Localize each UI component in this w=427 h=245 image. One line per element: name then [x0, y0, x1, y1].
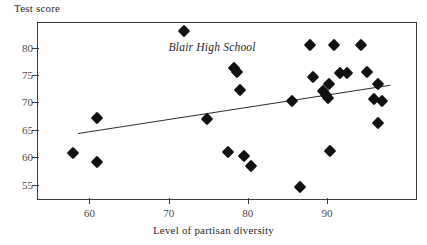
- data-point: [328, 39, 341, 52]
- x-tick-label: 80: [242, 207, 253, 219]
- data-point: [324, 144, 337, 157]
- data-point: [222, 145, 235, 158]
- y-tick-mark: [32, 102, 39, 103]
- y-tick-label: 75: [22, 69, 33, 81]
- y-tick-mark: [32, 75, 39, 76]
- plot-area: 55606570758060708090Blair High School: [37, 22, 417, 200]
- y-tick-label: 70: [22, 96, 33, 108]
- data-point: [355, 39, 368, 52]
- data-point: [245, 160, 258, 173]
- y-tick-mark: [32, 130, 39, 131]
- data-point: [91, 112, 104, 125]
- x-axis-title: Level of partisan diversity: [0, 224, 427, 236]
- trend-line: [78, 85, 391, 134]
- y-tick-mark: [32, 185, 39, 186]
- data-point: [360, 66, 373, 79]
- data-point: [200, 113, 213, 126]
- annotation-blair-high-school: Blair High School: [169, 41, 256, 53]
- x-tick-label: 70: [163, 207, 174, 219]
- x-tick-mark: [169, 198, 170, 204]
- y-tick-mark: [32, 48, 39, 49]
- data-point: [66, 146, 79, 159]
- data-point: [178, 25, 191, 38]
- x-tick-mark: [248, 198, 249, 204]
- x-tick-mark: [89, 198, 90, 204]
- y-tick-label: 60: [22, 151, 33, 163]
- y-tick-label: 55: [22, 179, 33, 191]
- data-point: [294, 181, 307, 194]
- y-axis-title: Test score: [14, 2, 60, 14]
- x-tick-label: 60: [84, 207, 95, 219]
- data-point: [303, 39, 316, 52]
- x-tick-mark: [327, 198, 328, 204]
- data-point: [234, 83, 247, 96]
- x-tick-label: 90: [321, 207, 332, 219]
- y-tick-mark: [32, 157, 39, 158]
- data-point: [372, 117, 385, 130]
- scatter-chart: Test score 55606570758060708090Blair Hig…: [0, 0, 427, 245]
- data-point: [306, 71, 319, 84]
- data-point: [286, 94, 299, 107]
- data-point: [91, 155, 104, 168]
- y-tick-label: 80: [22, 42, 33, 54]
- data-point: [376, 95, 389, 108]
- y-tick-label: 65: [22, 124, 33, 136]
